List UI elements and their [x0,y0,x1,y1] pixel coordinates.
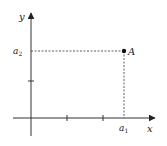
y-axis-label: y [18,11,25,22]
a1-label: a1 [119,123,128,134]
coordinate-diagram: y x A a2 a1 [0,0,167,146]
point-a-label: A [127,46,135,57]
point-a-marker [122,49,126,53]
a2-label: a2 [13,46,22,57]
x-axis-label: x [147,123,153,134]
